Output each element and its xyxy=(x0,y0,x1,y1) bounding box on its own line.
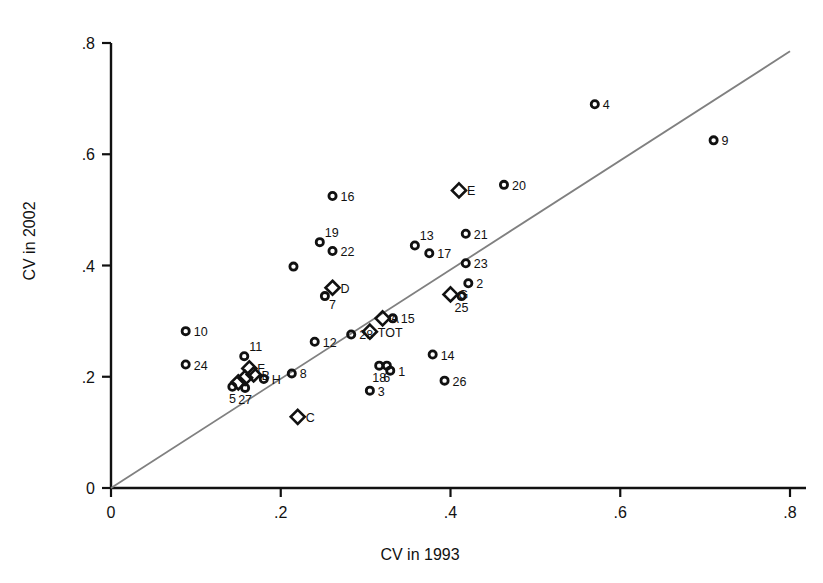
point-label: 12 xyxy=(323,336,337,350)
circle-marker xyxy=(462,230,469,237)
data-point: 5 xyxy=(229,383,236,406)
circle-marker xyxy=(426,250,433,257)
point-label: 27 xyxy=(238,393,252,407)
point-label: C xyxy=(306,411,315,425)
point-label: 22 xyxy=(341,245,355,259)
point-label: 14 xyxy=(441,349,455,363)
circle-marker xyxy=(366,387,373,394)
point-label: 25 xyxy=(455,301,469,315)
x-axis-title: CV in 1993 xyxy=(340,546,500,564)
x-tick-label: .4 xyxy=(444,504,457,521)
point-label: 1 xyxy=(398,365,405,379)
data-point: 10 xyxy=(182,325,208,339)
point-label: 13 xyxy=(420,229,434,243)
y-tick-label: .8 xyxy=(82,35,95,52)
point-label: 23 xyxy=(474,257,488,271)
reference-line xyxy=(111,51,790,488)
data-point: 19 xyxy=(316,226,339,246)
point-label: TOT xyxy=(378,326,403,340)
point-label: 7 xyxy=(329,298,336,312)
point-label: 24 xyxy=(194,359,208,373)
data-point: 21 xyxy=(462,228,488,242)
data-point: 11 xyxy=(241,340,263,360)
point-label: 15 xyxy=(401,312,415,326)
circle-marker xyxy=(462,260,469,267)
point-label: 2 xyxy=(476,277,483,291)
y-axis-title: CV in 2002 xyxy=(21,181,39,301)
data-point: 8 xyxy=(288,367,307,381)
y-tick-label: .2 xyxy=(82,369,95,386)
point-label: H xyxy=(272,373,281,387)
circle-marker xyxy=(290,263,297,270)
data-point: C xyxy=(291,410,315,425)
circle-marker xyxy=(465,280,472,287)
circle-marker xyxy=(376,362,383,369)
circle-marker xyxy=(288,370,295,377)
data-point: 28 xyxy=(348,328,374,342)
circle-marker xyxy=(329,247,336,254)
data-point: 13 xyxy=(411,229,434,249)
data-point: 12 xyxy=(311,336,337,350)
diamond-marker xyxy=(452,183,466,197)
circle-marker xyxy=(242,384,249,391)
data-point: 27 xyxy=(238,384,252,407)
x-tick-label: .2 xyxy=(274,504,287,521)
data-point: E xyxy=(452,183,475,198)
circle-marker xyxy=(182,328,189,335)
point-label: 19 xyxy=(325,226,339,240)
data-point: 7 xyxy=(321,292,336,312)
point-label: 21 xyxy=(474,228,488,242)
y-tick-label: .6 xyxy=(82,146,95,163)
point-label: 11 xyxy=(249,340,262,354)
circle-marker xyxy=(591,101,598,108)
data-point: 16 xyxy=(329,190,355,204)
point-label: 10 xyxy=(194,325,208,339)
data-point: 4 xyxy=(591,98,610,112)
point-label: E xyxy=(467,184,475,198)
x-tick-label: .6 xyxy=(614,504,627,521)
point-label: 9 xyxy=(722,134,729,148)
data-point: 17 xyxy=(426,247,452,261)
x-tick-label: 0 xyxy=(107,504,116,521)
point-label: 26 xyxy=(453,375,467,389)
y-tick-label: 0 xyxy=(86,480,95,497)
data-point: 14 xyxy=(429,349,455,363)
circle-marker xyxy=(321,292,328,299)
point-label: 5 xyxy=(229,392,236,406)
circle-marker xyxy=(316,239,323,246)
point-label: 16 xyxy=(341,190,355,204)
y-tick-label: .4 xyxy=(82,258,95,275)
circle-marker xyxy=(500,181,507,188)
circle-marker xyxy=(441,377,448,384)
point-label: 8 xyxy=(300,367,307,381)
circle-marker xyxy=(182,361,189,368)
diamond-marker xyxy=(291,410,305,424)
circle-marker xyxy=(241,353,248,360)
point-label: 4 xyxy=(603,98,610,112)
data-point: 22 xyxy=(329,245,355,259)
point-label: 28 xyxy=(359,328,373,342)
data-point xyxy=(290,263,297,270)
data-point: 24 xyxy=(182,359,208,373)
data-point: 26 xyxy=(441,375,467,389)
x-tick-label: .8 xyxy=(783,504,796,521)
point-label: D xyxy=(341,282,350,296)
circle-marker xyxy=(411,242,418,249)
point-label: 3 xyxy=(378,385,385,399)
data-point: 23 xyxy=(462,257,488,271)
circle-marker xyxy=(229,383,236,390)
circle-marker xyxy=(311,338,318,345)
circle-marker xyxy=(429,351,436,358)
circle-marker xyxy=(710,137,717,144)
data-point: 20 xyxy=(500,179,526,193)
diamond-marker xyxy=(444,287,458,301)
plot-area: 0.2.4.6.80.2.4.6.84920E162119132217232DG… xyxy=(0,0,823,583)
point-label: 20 xyxy=(512,179,526,193)
point-label: 17 xyxy=(437,247,451,261)
data-point: 9 xyxy=(710,134,729,148)
scatter-chart: 0.2.4.6.80.2.4.6.84920E162119132217232DG… xyxy=(0,0,823,583)
circle-marker xyxy=(329,192,336,199)
data-point: 3 xyxy=(366,385,385,399)
